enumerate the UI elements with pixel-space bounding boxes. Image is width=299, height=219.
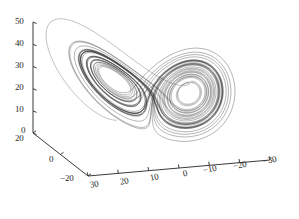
z-tick-mark <box>33 66 37 68</box>
z-tick-label: 20 <box>15 83 24 92</box>
z-tick-label: 50 <box>15 17 24 26</box>
attractor-trajectory <box>69 41 235 141</box>
x-tick-mark <box>118 170 119 174</box>
x-tick-label: 30 <box>89 179 99 190</box>
z-tick-mark <box>33 111 37 113</box>
plot-canvas <box>0 0 299 219</box>
x-tick-mark <box>87 172 88 176</box>
y-tick-label: 0 <box>49 155 53 164</box>
z-tick-label: 40 <box>15 39 24 48</box>
y-tick-label: −20 <box>60 174 73 183</box>
x-tick-label: 10 <box>149 172 159 183</box>
y-tick-mark <box>61 152 64 154</box>
lorenz-attractor-figure: 50403020100200−203020100−10−20−30 <box>0 0 299 219</box>
z-axis-ticks <box>33 22 37 135</box>
z-tick-label: 30 <box>15 61 24 70</box>
x-tick-mark <box>178 164 179 168</box>
x-tick-label: 20 <box>119 176 129 187</box>
x-tick-mark <box>148 167 149 171</box>
y-tick-label: 20 <box>15 134 24 143</box>
z-tick-mark <box>33 44 37 46</box>
z-tick-mark <box>33 89 37 91</box>
z-tick-mark <box>33 22 37 24</box>
z-tick-label: 10 <box>15 105 24 114</box>
trajectory-group <box>46 19 235 142</box>
y-axis-ticks <box>33 131 91 176</box>
